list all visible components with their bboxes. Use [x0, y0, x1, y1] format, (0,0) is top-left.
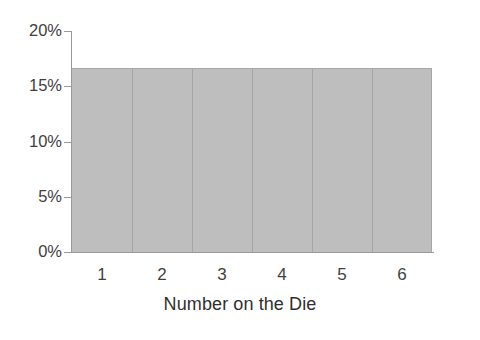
x-axis-tick-labels: 123456 [72, 262, 432, 288]
bar-cell [192, 31, 252, 252]
x-axis-title: Number on the Die [0, 295, 480, 313]
y-axis-tick-mark [64, 31, 72, 32]
x-axis-tick-label: 4 [252, 262, 312, 288]
bar-chart: 20%15%10%5%0% 123456 Number on the Die [0, 0, 480, 340]
x-axis-tick-label: 2 [132, 262, 192, 288]
bar-cell [72, 31, 132, 252]
bar-cell [132, 31, 192, 252]
bar [312, 68, 372, 252]
bar [132, 68, 192, 252]
bar [72, 68, 132, 252]
y-axis-tick-label: 0% [4, 243, 62, 260]
y-axis-tick-label: 5% [4, 188, 62, 205]
bar-series [72, 31, 432, 252]
x-axis-tick-label: 6 [372, 262, 432, 288]
y-axis-tick-mark [64, 197, 72, 198]
y-axis-tick-label: 10% [4, 133, 62, 150]
x-axis-line [64, 252, 434, 253]
x-axis-tick-label: 5 [312, 262, 372, 288]
y-axis-tick-mark [64, 142, 72, 143]
bar [252, 68, 312, 252]
y-axis-tick-mark [64, 252, 72, 253]
x-axis-tick-label: 1 [72, 262, 132, 288]
y-axis-tick-label: 20% [4, 22, 62, 39]
plot-area [72, 31, 432, 252]
bar-cell [312, 31, 372, 252]
bar-cell [252, 31, 312, 252]
x-axis-tick-label: 3 [192, 262, 252, 288]
bar [372, 68, 432, 252]
bar-cell [372, 31, 432, 252]
y-axis-tick-mark [64, 86, 72, 87]
bar [192, 68, 252, 252]
y-axis-tick-label: 15% [4, 77, 62, 94]
